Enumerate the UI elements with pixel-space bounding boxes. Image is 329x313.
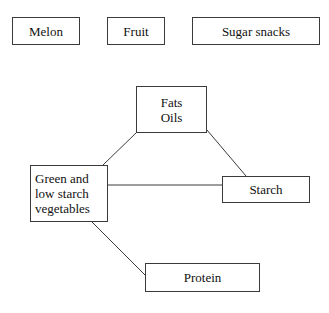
connector-vegetables-to-protein [92,222,148,278]
node-vegetables: Green and low starch vegetables [30,165,108,222]
connector-fats-oils-to-starch [207,130,246,176]
diagram-canvas: Melon Fruit Sugar snacks Fats Oils Green… [0,0,329,313]
connector-fats-oils-to-vegetables [103,133,136,165]
node-starch: Starch [222,176,310,203]
node-vegetables-label-line2: low starch [35,186,89,201]
node-fruit: Fruit [107,17,165,45]
node-protein: Protein [145,263,260,292]
node-fats-oils-label-line2: Oils [161,110,183,125]
node-vegetables-label-line3: vegetables [35,201,90,216]
node-sugar-snacks: Sugar snacks [192,17,320,45]
node-melon-label: Melon [29,24,63,39]
node-fruit-label: Fruit [123,24,148,39]
node-fats-oils: Fats Oils [136,86,207,133]
node-fats-oils-label-line1: Fats [161,95,183,110]
node-protein-label: Protein [184,270,222,285]
node-starch-label: Starch [249,182,282,197]
node-melon: Melon [12,17,80,45]
node-sugar-snacks-label: Sugar snacks [222,24,290,39]
node-vegetables-label-line1: Green and [35,171,89,186]
